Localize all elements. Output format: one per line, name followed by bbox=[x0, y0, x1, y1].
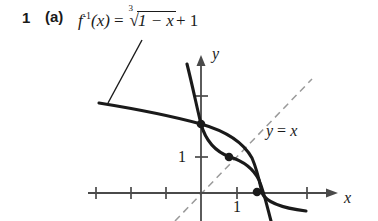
identity-label-equals: = bbox=[277, 122, 286, 139]
identity-label-x: x bbox=[290, 122, 297, 139]
intersection-point-2 bbox=[225, 153, 234, 162]
graph-drawing bbox=[0, 0, 378, 221]
y-axis-arrowhead bbox=[197, 55, 206, 66]
equation-leader-line bbox=[108, 40, 142, 103]
curve-f bbox=[187, 64, 271, 221]
y-axis-label: y bbox=[212, 46, 219, 62]
identity-label-y: y bbox=[266, 122, 273, 139]
x-tick-label-1: 1 bbox=[233, 199, 241, 215]
intersection-point-3 bbox=[253, 188, 262, 197]
intersection-point-1 bbox=[197, 120, 206, 129]
figure-canvas: 1 (a) f-1(x)=3√1 − x+ 1 bbox=[0, 0, 378, 221]
x-axis-label: x bbox=[344, 190, 351, 206]
x-axis-arrowhead bbox=[326, 189, 338, 198]
y-tick-label-1: 1 bbox=[178, 149, 186, 165]
identity-line-label: y=x bbox=[266, 123, 297, 139]
